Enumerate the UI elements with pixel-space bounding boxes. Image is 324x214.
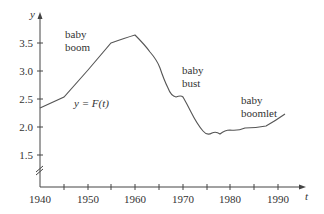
annotation-boom-line2: boom bbox=[65, 41, 91, 53]
y-tick-label: 1.5 bbox=[19, 149, 33, 161]
x-tick-label: 1940 bbox=[29, 193, 52, 205]
x-axis-label: t bbox=[305, 190, 309, 202]
annotation-boomlet-line1: baby bbox=[241, 94, 263, 106]
x-axis-arrow-icon bbox=[299, 185, 306, 190]
y-tick-label: 2.0 bbox=[19, 121, 33, 133]
x-tick-label: 1980 bbox=[219, 193, 242, 205]
y-tick-label: 3.5 bbox=[19, 37, 33, 49]
chart: 3.5 3.0 2.5 2.0 1.5 y 1940 1950 1960 197… bbox=[0, 0, 324, 214]
x-tick-label: 1970 bbox=[172, 193, 195, 205]
y-axis-arrow-icon bbox=[38, 12, 43, 19]
annotation-bust-line2: bust bbox=[182, 77, 200, 89]
y-tick-label: 3.0 bbox=[19, 65, 33, 77]
y-tick-label: 2.5 bbox=[19, 93, 33, 105]
curve-label: y = F(t) bbox=[73, 97, 109, 110]
x-tick-label: 1990 bbox=[267, 193, 290, 205]
annotation-bust-line1: baby bbox=[182, 64, 204, 76]
x-tick-label: 1950 bbox=[77, 193, 100, 205]
y-axis-label: y bbox=[29, 8, 35, 20]
annotation-boomlet-line2: boomlet bbox=[241, 107, 277, 119]
x-tick-label: 1960 bbox=[124, 193, 147, 205]
annotation-boom-line1: baby bbox=[65, 28, 87, 40]
